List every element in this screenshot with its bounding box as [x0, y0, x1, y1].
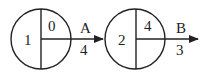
- activity-duration: 4: [80, 42, 88, 58]
- node-number: 2: [118, 32, 126, 48]
- activity-duration: 3: [176, 42, 184, 58]
- node-early-time: 0: [48, 18, 56, 34]
- activity-name: B: [176, 20, 186, 36]
- node-early-time: 4: [144, 18, 152, 34]
- network-diagram: 1 0 A 4 2 4 B 3: [0, 0, 207, 73]
- activity-name: A: [80, 20, 91, 36]
- node-number: 1: [24, 32, 32, 48]
